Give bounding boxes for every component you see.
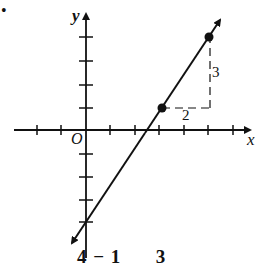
origin-label: O — [71, 130, 83, 148]
graph-line-lower — [72, 133, 145, 243]
point-3-1 — [158, 104, 167, 113]
run-label: 2 — [182, 107, 190, 124]
rise-label: 3 — [212, 64, 220, 81]
y-axis-label: y — [72, 6, 80, 26]
coordinate-plane — [0, 0, 263, 268]
caption-fragment: 4 − 1 3 — [77, 246, 166, 268]
point-5-4 — [205, 33, 214, 42]
x-axis-label: x — [247, 130, 255, 150]
